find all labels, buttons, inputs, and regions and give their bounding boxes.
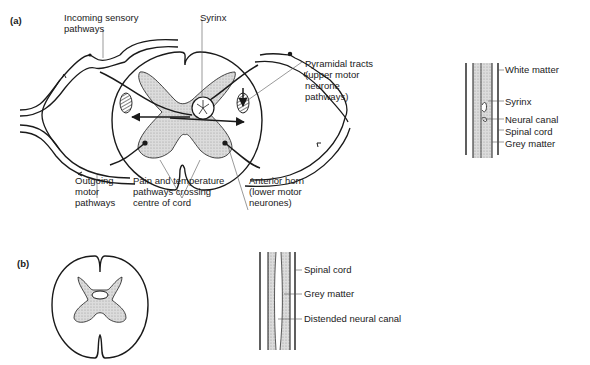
label-grey-matter-b: Grey matter [304, 288, 354, 299]
panel-a-label: (a) [10, 15, 22, 26]
label-spinal-cord-a: Spinal cord [505, 126, 553, 137]
distended-canal-b [92, 291, 108, 299]
label-white-matter: White matter [505, 64, 559, 75]
label-spinal-cord-b: Spinal cord [304, 264, 352, 275]
label-syrinx: Syrinx [200, 12, 226, 23]
label-pain-temperature: Pain and temperature pathways crossing c… [133, 175, 224, 208]
left-ganglion [88, 53, 91, 56]
label-incoming-sensory: Incoming sensory pathways [64, 12, 138, 34]
longitudinal-section-b [260, 252, 302, 350]
left-tract [120, 93, 132, 113]
label-grey-matter-a: Grey matter [505, 138, 555, 149]
longitudinal-section-a [466, 63, 504, 158]
label-pyramidal-tracts: Pyramidal tracts (upper motor neurone pa… [305, 58, 373, 102]
left-anterior-horn-neuron [142, 140, 147, 145]
label-distended-canal: Distended neural canal [304, 313, 401, 324]
arrow-icon [317, 143, 321, 147]
right-anterior-horn-neuron [222, 140, 227, 145]
label-neural-canal: Neural canal [505, 114, 558, 125]
label-anterior-horn: Anterior horn (lower motor neurones) [249, 175, 304, 208]
label-outgoing-motor: Outgoing motor pathways [75, 175, 115, 208]
panel-b-label: (b) [17, 258, 29, 269]
label-syrinx-long: Syrinx [505, 96, 531, 107]
